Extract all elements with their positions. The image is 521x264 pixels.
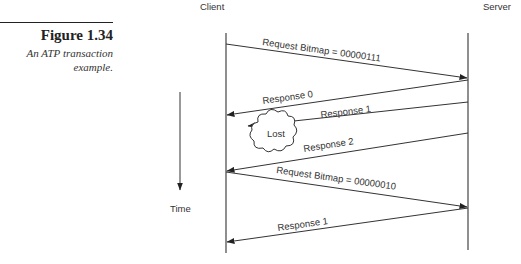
message-response-1-retry: Response 1 bbox=[227, 208, 468, 242]
message-request-1: Request Bitmap = 00000111 bbox=[226, 36, 467, 78]
message-request-2: Request Bitmap = 00000010 bbox=[226, 164, 467, 207]
lost-label: Lost bbox=[267, 128, 285, 139]
client-label: Client bbox=[200, 1, 225, 12]
lost-cloud-icon: Lost bbox=[250, 109, 297, 151]
message-label: Response 1 bbox=[320, 103, 372, 120]
message-label: Response 2 bbox=[303, 135, 355, 154]
time-label: Time bbox=[170, 203, 191, 214]
server-label: Server bbox=[483, 1, 511, 12]
sequence-diagram: Client Server Time Request Bitmap = 0000… bbox=[0, 0, 521, 264]
message-label: Request Bitmap = 00000111 bbox=[262, 36, 382, 63]
message-label: Response 1 bbox=[277, 215, 329, 233]
